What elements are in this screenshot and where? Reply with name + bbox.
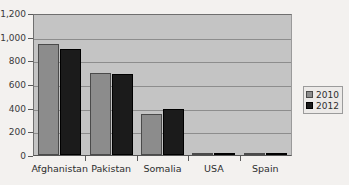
legend-swatch-icon-2010: [306, 91, 313, 98]
x-axis: AfghanistanPakistanSomaliaUSASpain: [33, 163, 292, 177]
x-tick-mark: [188, 156, 189, 161]
bar-group: [137, 15, 188, 155]
bar-afghanistan-2010: [38, 44, 59, 155]
chart-legend: 2010 2012: [303, 86, 343, 114]
legend-label-2010: 2010: [316, 90, 339, 100]
bar-chart: 02004006008001,0001,200 AfghanistanPakis…: [0, 0, 349, 185]
x-label-pakistan: Pakistan: [91, 163, 131, 174]
bar-somalia-2012: [163, 109, 184, 155]
legend-item-2010: 2010: [306, 89, 339, 100]
y-tick-label: 1,000: [0, 33, 26, 42]
x-label-somalia: Somalia: [143, 163, 181, 174]
bar-group: [240, 15, 291, 155]
y-tick-label: 400: [9, 104, 26, 113]
bar-spain-2012: [266, 153, 287, 155]
y-tick-label: 0: [20, 152, 26, 161]
legend-swatch-icon-2012: [306, 102, 313, 109]
bar-group: [34, 15, 85, 155]
y-tick-mark: [28, 38, 33, 39]
bar-spain-2010: [244, 153, 265, 155]
y-tick-mark: [28, 61, 33, 62]
y-tick-mark: [28, 132, 33, 133]
bar-afghanistan-2012: [60, 49, 81, 155]
x-tick-mark: [137, 156, 138, 161]
bar-group: [188, 15, 239, 155]
y-axis: 02004006008001,0001,200: [0, 14, 30, 156]
y-tick-label: 200: [9, 128, 26, 137]
y-tick-label: 800: [9, 57, 26, 66]
x-label-spain: Spain: [252, 163, 279, 174]
x-label-afghanistan: Afghanistan: [31, 163, 88, 174]
x-tick-mark: [240, 156, 241, 161]
y-tick-label: 600: [9, 81, 26, 90]
y-tick-mark: [28, 156, 33, 157]
bars-layer: [34, 15, 291, 155]
y-tick-mark: [28, 14, 33, 15]
bar-usa-2010: [192, 153, 213, 155]
legend-label-2012: 2012: [316, 101, 339, 111]
x-tick-mark: [85, 156, 86, 161]
bar-group: [85, 15, 136, 155]
bar-pakistan-2010: [90, 73, 111, 155]
bar-somalia-2010: [141, 114, 162, 155]
x-label-usa: USA: [204, 163, 224, 174]
chart-title-cutoff: [120, 0, 200, 2]
y-tick-mark: [28, 109, 33, 110]
bar-pakistan-2012: [112, 74, 133, 155]
bar-usa-2012: [214, 153, 235, 155]
y-tick-mark: [28, 85, 33, 86]
legend-item-2012: 2012: [306, 100, 339, 111]
y-tick-label: 1,200: [0, 10, 26, 19]
